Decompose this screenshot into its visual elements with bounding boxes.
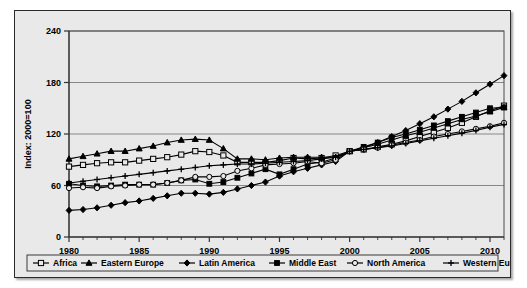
legend-label: Middle East bbox=[289, 258, 336, 268]
data-point bbox=[207, 181, 212, 186]
data-point bbox=[94, 161, 99, 166]
data-point bbox=[235, 175, 240, 180]
legend-label: Africa bbox=[53, 258, 77, 268]
data-point bbox=[277, 172, 282, 177]
data-point bbox=[66, 185, 71, 190]
y-tick-label: 60 bbox=[51, 181, 61, 191]
data-point bbox=[502, 105, 507, 110]
data-point bbox=[123, 160, 128, 165]
data-point bbox=[80, 185, 85, 190]
data-point bbox=[474, 110, 479, 115]
data-point bbox=[179, 178, 184, 183]
data-point bbox=[66, 164, 71, 169]
data-point bbox=[417, 127, 422, 132]
data-point bbox=[207, 149, 212, 154]
data-point bbox=[389, 135, 394, 140]
data-point bbox=[179, 152, 184, 157]
data-point bbox=[38, 260, 43, 265]
data-point bbox=[165, 155, 170, 160]
legend-label: North America bbox=[367, 258, 426, 268]
data-point bbox=[460, 114, 465, 119]
data-point bbox=[221, 173, 226, 178]
data-point bbox=[352, 260, 357, 265]
legend-label: Western Europe bbox=[463, 258, 510, 268]
data-point bbox=[488, 106, 493, 111]
data-point bbox=[108, 184, 113, 189]
line-chart: 060120180240 198019851990199520002005201… bbox=[15, 11, 510, 277]
y-tick-label: 180 bbox=[46, 78, 61, 88]
data-point bbox=[193, 174, 198, 179]
data-point bbox=[431, 123, 436, 128]
data-point bbox=[207, 174, 212, 179]
data-point bbox=[235, 168, 240, 173]
legend-label: Eastern Europe bbox=[101, 258, 164, 268]
legend-label: Latin America bbox=[199, 258, 255, 268]
data-point bbox=[137, 158, 142, 163]
chart-frame: 060120180240 198019851990199520002005201… bbox=[14, 10, 511, 278]
data-point bbox=[221, 180, 226, 185]
chart-container: 060120180240 198019851990199520002005201… bbox=[15, 11, 510, 277]
data-point bbox=[165, 180, 170, 185]
data-point bbox=[275, 261, 280, 266]
y-tick-label: 240 bbox=[46, 26, 61, 36]
data-point bbox=[123, 183, 128, 188]
y-axis-label: Index: 2000=100 bbox=[23, 99, 33, 168]
data-point bbox=[403, 132, 408, 137]
data-point bbox=[94, 185, 99, 190]
chart-legend: AfricaEastern EuropeLatin AmericaMiddle … bbox=[27, 255, 510, 271]
data-point bbox=[137, 182, 142, 187]
data-point bbox=[221, 153, 226, 158]
data-point bbox=[108, 160, 113, 165]
data-point bbox=[249, 171, 254, 176]
data-point bbox=[80, 162, 85, 167]
data-point bbox=[445, 119, 450, 124]
data-point bbox=[151, 156, 156, 161]
data-point bbox=[151, 182, 156, 187]
y-tick-label: 0 bbox=[56, 232, 61, 242]
data-point bbox=[291, 167, 296, 172]
data-point bbox=[193, 149, 198, 154]
legend-box bbox=[27, 255, 498, 271]
y-tick-label: 120 bbox=[46, 129, 61, 139]
data-point bbox=[375, 140, 380, 145]
